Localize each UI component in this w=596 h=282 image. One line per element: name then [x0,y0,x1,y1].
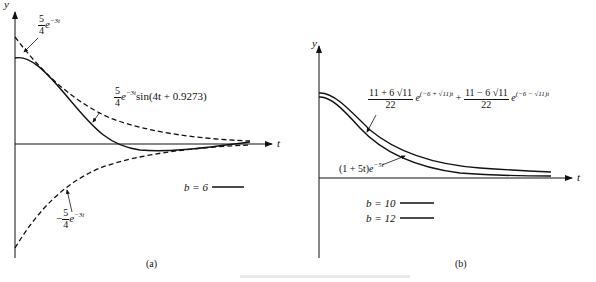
polynomial-term: (1 + 5t) [339,163,369,174]
panel-b-t-axis-label: t [577,172,580,183]
denominator-2: 22 [464,100,509,111]
critically-damped-label: (1 + 5t)e−5t [339,162,384,174]
overdamped-label: 11 + 6 √1122 e(−6 + √11)t + 11 − 6 √1122… [368,88,549,110]
upper-envelope-label: 54e−3t [38,14,60,36]
exponent-1: (−6 + √11)t [420,90,453,98]
panel-a-curves [15,37,250,248]
panel-a-caption: (a) [146,258,157,269]
lower-envelope-curve [15,145,250,248]
coef-den: 4 [114,98,121,109]
figure-canvas [0,0,596,282]
legend-b10-label: b = 10 [366,198,395,209]
coef-den: 4 [38,26,45,37]
numerator-1: 11 + 6 √11 [368,88,413,100]
exponent-2: (−6 − √11)t [516,90,549,98]
exponent: −3t [126,89,136,97]
lower-envelope-label: −54e−3t [56,208,84,230]
faint-figure-caption [240,275,410,278]
panel-b-caption: (b) [455,258,467,269]
panel-b-axes [319,46,572,258]
coef-num: 5 [114,86,121,98]
sin-term: sin(4t + 0.9273) [136,90,207,102]
panel-a-y-axis-label: y [4,0,9,10]
plus-sign: + [456,92,462,103]
legend-b6-label: b = 6 [184,182,208,193]
denominator-1: 22 [368,100,413,111]
exponent: −5t [374,161,384,169]
damped-oscillation-label: 54e−3tsin(4t + 0.9273) [114,86,207,108]
exponent: −3t [74,211,84,219]
exponent: −3t [50,17,60,25]
coef-num: 5 [38,14,45,26]
panel-a-t-axis-label: t [277,138,280,149]
panel-a-axes [15,12,272,258]
numerator-2: 11 − 6 √11 [464,88,509,100]
legend-b12-label: b = 12 [366,213,395,224]
panel-b-y-axis-label: y [312,38,317,49]
